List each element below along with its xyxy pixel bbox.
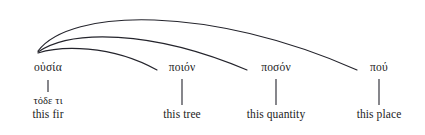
node-gloss-english-pou: this place xyxy=(357,108,402,121)
diagram-root: οὐσίατόδε τιthis firποιόνthis treeποσόνt… xyxy=(0,0,425,135)
node-gloss-english-poion: this tree xyxy=(163,108,201,121)
node-label-poion: ποιόν xyxy=(169,61,196,74)
relation-arc xyxy=(38,37,247,70)
node-gloss-english-poson: this quantity xyxy=(247,108,305,121)
node-gloss-english-ousia: this fir xyxy=(32,108,63,121)
node-label-pou: πού xyxy=(370,61,388,74)
node-label-poson: ποσόν xyxy=(261,61,291,74)
stems-group xyxy=(48,79,379,105)
relation-arc xyxy=(38,20,357,70)
arcs-group xyxy=(38,20,357,70)
node-gloss-greek-ousia: τόδε τι xyxy=(33,95,62,107)
node-label-ousia: οὐσία xyxy=(34,61,62,74)
